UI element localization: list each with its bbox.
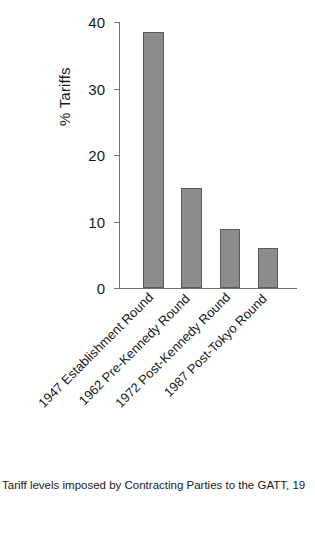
x-axis-tick-labels: 1947 Establishment Round 1962 Pre-Kenned… <box>0 288 315 448</box>
y-tick-label-40: 40 <box>88 15 105 30</box>
y-axis-line <box>119 22 120 289</box>
figure-caption: Tariff levels imposed by Contracting Par… <box>2 479 315 493</box>
bar-1 <box>181 188 202 288</box>
y-tick-40: 40 <box>114 22 119 23</box>
bar-3 <box>258 248 278 288</box>
bar-chart-figure: % Tariffs 0 10 20 30 40 1947 Establishme… <box>0 0 315 552</box>
y-tick-10: 10 <box>114 222 119 223</box>
y-tick-20: 20 <box>114 155 119 156</box>
y-tick-label-10: 10 <box>88 214 105 229</box>
bar-0 <box>143 32 164 288</box>
y-axis-title: % Tariffs <box>56 104 73 126</box>
y-tick-30: 30 <box>114 89 119 90</box>
bar-2 <box>220 229 240 288</box>
y-tick-label-30: 30 <box>88 81 105 96</box>
y-tick-label-20: 20 <box>88 148 105 163</box>
plot-area: 0 10 20 30 40 <box>119 22 297 288</box>
